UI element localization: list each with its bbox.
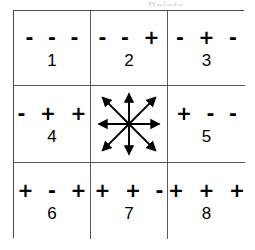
cell-signs: + + -	[91, 181, 167, 200]
arrow-north-east	[129, 97, 156, 124]
grid-cell-3[interactable]: - + - 3	[168, 11, 245, 86]
cell-signs: - + +	[14, 104, 90, 123]
arrow-north-west	[102, 97, 129, 124]
grid-cell-5[interactable]: + - - 5	[168, 86, 245, 163]
cell-number: 2	[124, 52, 133, 69]
cell-number: 5	[202, 128, 211, 145]
cell-number: 4	[47, 128, 56, 145]
grid-cell-1[interactable]: - - - 1	[14, 11, 91, 86]
arrow-south-east	[129, 124, 156, 151]
cell-number: 8	[202, 205, 211, 222]
grid-cell-8[interactable]: + + + 8	[168, 163, 245, 239]
cell-signs: + - -	[172, 104, 241, 123]
sign-grid: - - - 1 - - + 2 - + - 3 - + + 4	[13, 10, 244, 238]
cell-number: 3	[202, 52, 211, 69]
grid-cell-6[interactable]: + - + 6	[14, 163, 91, 239]
eight-direction-arrows-icon	[91, 86, 167, 162]
top-caption-remnant: Points	[148, 0, 240, 6]
grid-cell-7[interactable]: + + - 7	[91, 163, 168, 239]
cell-signs: + + +	[168, 181, 245, 200]
grid-cell-2[interactable]: - - + 2	[91, 11, 168, 86]
cell-signs: - - -	[22, 28, 83, 47]
grid-cell-4[interactable]: - + + 4	[14, 86, 91, 163]
cell-number: 6	[47, 205, 56, 222]
cell-number: 7	[124, 205, 133, 222]
cell-signs: - + -	[172, 28, 241, 47]
grid-cell-center-arrows[interactable]	[91, 86, 168, 163]
cell-signs: - - +	[95, 28, 164, 47]
cell-number: 1	[47, 52, 56, 69]
arrow-south-west	[102, 124, 129, 151]
figure-canvas: Points - - - 1 - - + 2 - + - 3 - + + 4	[0, 0, 255, 250]
cell-signs: + - +	[14, 181, 90, 200]
